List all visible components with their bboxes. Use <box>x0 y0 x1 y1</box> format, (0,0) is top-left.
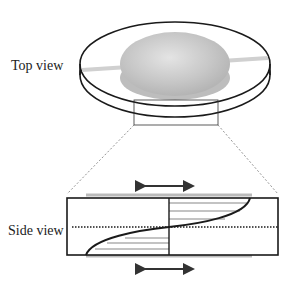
diagram <box>0 0 290 285</box>
sample-blob <box>120 32 230 100</box>
disk-top-view <box>80 22 270 125</box>
side-view-box <box>67 195 278 256</box>
